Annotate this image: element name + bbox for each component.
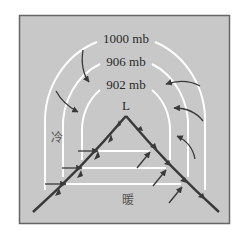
cold-air-label: 冷 [51,131,63,145]
isobar-label-906: 906 mb [106,54,145,69]
isobar-label-902: 902 mb [106,77,145,92]
weather-diagram: 1000 mb 906 mb 902 mb L 冷 暖 [0,0,244,246]
isobar-label-1000: 1000 mb [103,31,149,46]
low-pressure-label: L [122,98,130,113]
warm-air-label: 暖 [122,193,134,207]
